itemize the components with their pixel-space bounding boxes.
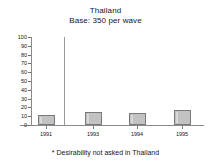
- bar-1993: [85, 112, 102, 125]
- y-tick-label-80: 80: [13, 52, 27, 58]
- bar-highlight: [40, 117, 42, 123]
- y-tick-label-30: 30: [13, 96, 27, 102]
- bar-1991: [38, 115, 55, 125]
- y-axis-line: [31, 37, 32, 126]
- y-tick-mark-60: [28, 72, 31, 73]
- y-tick-mark-50: [28, 81, 31, 82]
- y-tick-mark-10: [28, 116, 31, 117]
- y-tick-mark-40: [28, 90, 31, 91]
- y-tick-mark-90: [28, 46, 31, 47]
- chart-footnote: * Desirability not asked in Thailand: [0, 148, 211, 157]
- x-tick-label-1991: 1991: [26, 131, 66, 138]
- chart-container: Thailand Base: 350 per wave 100 90 80 70…: [0, 0, 211, 163]
- y-tick-mark-30: [28, 99, 31, 100]
- x-tick-label-1994: 1994: [117, 131, 157, 138]
- bar-highlight: [176, 112, 178, 123]
- x-axis-line: [20, 125, 204, 126]
- y-tick-label-90: 90: [13, 43, 27, 49]
- bar-1995: [174, 110, 191, 125]
- y-tick-label-10: 10: [13, 113, 27, 119]
- y-tick-label-0: 0: [13, 122, 27, 128]
- y-tick-mark-80: [28, 55, 31, 56]
- y-tick-label-20: 20: [13, 104, 27, 110]
- y-tick-mark-70: [28, 63, 31, 64]
- y-tick-label-40: 40: [13, 87, 27, 93]
- y-tick-label-60: 60: [13, 69, 27, 75]
- bar-1994: [129, 113, 146, 125]
- x-tick-label-1993: 1993: [73, 131, 113, 138]
- y-tick-label-70: 70: [13, 60, 27, 66]
- x-tick-mark-1991: [46, 126, 47, 129]
- x-tick-mark-1993: [93, 126, 94, 129]
- no-data-marker-1992: [64, 37, 65, 125]
- plot-area: 100 90 80 70 60 50 40 30 20 10 0: [0, 0, 211, 163]
- x-tick-mark-1994: [137, 126, 138, 129]
- y-tick-label-100: 100: [13, 34, 27, 40]
- x-tick-label-1995: 1995: [162, 131, 202, 138]
- y-tick-label-50: 50: [13, 78, 27, 84]
- y-tick-mark-100: [28, 37, 31, 38]
- bar-highlight: [131, 115, 133, 123]
- bar-highlight: [87, 114, 89, 123]
- y-tick-mark-0: [28, 125, 31, 126]
- y-tick-mark-20: [28, 107, 31, 108]
- x-tick-mark-1995: [182, 126, 183, 129]
